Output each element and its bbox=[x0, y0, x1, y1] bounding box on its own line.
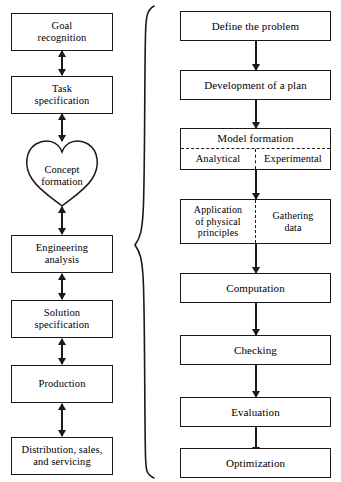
cell-analytical[interactable]: Analytical bbox=[181, 149, 256, 169]
node-application-gathering-cells: Application of physical principles Gathe… bbox=[181, 200, 330, 243]
node-task-specification[interactable]: Task specification bbox=[11, 76, 113, 114]
node-goal-recognition-label: Goal recognition bbox=[38, 20, 87, 44]
node-optimization-label: Optimization bbox=[226, 457, 285, 469]
node-development-of-plan[interactable]: Development of a plan bbox=[180, 70, 331, 100]
arrowhead-down-icon bbox=[58, 358, 66, 365]
node-solution-specification-label: Solution specification bbox=[35, 307, 90, 331]
node-engineering-analysis[interactable]: Engineering analysis bbox=[11, 235, 113, 273]
arrowhead-up-icon bbox=[58, 113, 66, 120]
node-solution-specification[interactable]: Solution specification bbox=[11, 300, 113, 338]
node-distribution-sales[interactable]: Distribution, sales, and servicing bbox=[11, 437, 113, 475]
node-development-of-plan-label: Development of a plan bbox=[204, 79, 307, 91]
node-checking[interactable]: Checking bbox=[180, 335, 331, 365]
arrowhead-down-icon bbox=[58, 69, 66, 76]
node-concept-formation-label: Concept formation bbox=[22, 140, 102, 208]
cell-application-of-physical-principles[interactable]: Application of physical principles bbox=[181, 200, 256, 243]
node-evaluation-label: Evaluation bbox=[231, 406, 280, 418]
node-evaluation[interactable]: Evaluation bbox=[180, 397, 331, 427]
node-task-specification-label: Task specification bbox=[35, 83, 90, 107]
node-distribution-sales-label: Distribution, sales, and servicing bbox=[21, 444, 102, 468]
node-computation-label: Computation bbox=[226, 282, 285, 294]
curly-brace-icon bbox=[132, 4, 166, 480]
arrowhead-down-icon bbox=[58, 430, 66, 437]
flowchart-diagram: Goal recognition Task specification Conc… bbox=[0, 0, 341, 482]
node-define-the-problem[interactable]: Define the problem bbox=[180, 11, 331, 41]
arrowhead-up-icon bbox=[58, 273, 66, 280]
cell-experimental[interactable]: Experimental bbox=[256, 149, 330, 169]
expansion-brace bbox=[132, 4, 166, 480]
node-goal-recognition[interactable]: Goal recognition bbox=[11, 13, 113, 51]
node-production[interactable]: Production bbox=[11, 365, 113, 403]
arrowhead-up-icon bbox=[58, 403, 66, 410]
arrowhead-up-icon bbox=[58, 50, 66, 57]
node-concept-formation[interactable]: Concept formation bbox=[22, 140, 102, 208]
node-engineering-analysis-label: Engineering analysis bbox=[36, 242, 88, 266]
node-computation[interactable]: Computation bbox=[180, 273, 331, 303]
arrowhead-down-icon bbox=[58, 293, 66, 300]
node-define-the-problem-label: Define the problem bbox=[212, 20, 299, 32]
node-application-gathering[interactable]: Application of physical principles Gathe… bbox=[180, 199, 331, 244]
node-checking-label: Checking bbox=[234, 344, 277, 356]
node-model-formation-label: Model formation bbox=[181, 129, 330, 149]
arrowhead-down-icon bbox=[58, 228, 66, 235]
arrowhead-up-icon bbox=[58, 338, 66, 345]
cell-gathering-data[interactable]: Gathering data bbox=[256, 200, 330, 243]
arrowhead-up-icon bbox=[58, 206, 66, 213]
node-production-label: Production bbox=[38, 378, 85, 390]
node-model-formation-cells: Analytical Experimental bbox=[181, 149, 330, 169]
node-optimization[interactable]: Optimization bbox=[180, 448, 331, 478]
node-model-formation[interactable]: Model formation Analytical Experimental bbox=[180, 128, 331, 170]
